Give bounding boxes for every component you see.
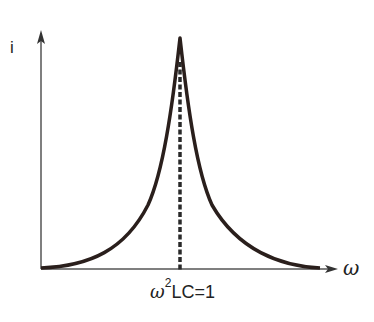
condition-text: LC=1 bbox=[171, 282, 215, 302]
y-axis-label: i bbox=[10, 38, 14, 58]
resonance-plot bbox=[0, 0, 374, 322]
x-axis-label: ω bbox=[343, 256, 359, 280]
resonance-condition-label: ω2LC=1 bbox=[150, 280, 215, 303]
omega-symbol: ω bbox=[150, 281, 165, 302]
exponent: 2 bbox=[165, 276, 172, 290]
